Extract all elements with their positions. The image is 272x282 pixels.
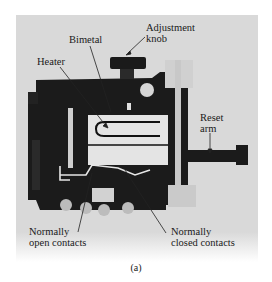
label-line: Normally [171,226,235,237]
label-line: Reset [200,112,223,123]
label-line: open contacts [29,237,86,248]
label-reset-arm: Reset arm [200,112,223,134]
label-bimetal: Bimetal [69,34,102,45]
label-line: knob [146,33,195,44]
label-line: arm [200,123,223,134]
label-heater: Heater [37,56,65,67]
label-normally-open: Normally open contacts [29,226,86,248]
label-line: Adjustment [146,22,195,33]
figure-caption: (a) [0,262,272,273]
label-normally-closed: Normally closed contacts [171,226,235,248]
label-adjustment-knob: Adjustment knob [146,22,195,44]
label-line: closed contacts [171,237,235,248]
label-line: Normally [29,226,86,237]
